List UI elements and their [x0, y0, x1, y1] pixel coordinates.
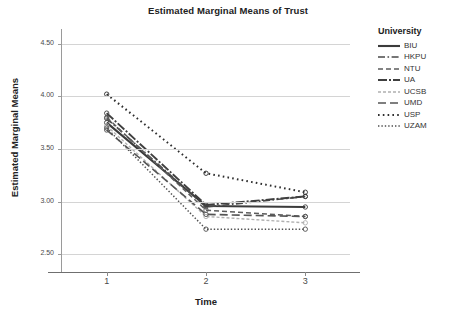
series-uzam [104, 126, 307, 232]
legend-item-label: HKPU [404, 52, 426, 62]
legend-swatch-icon [378, 75, 400, 85]
series-ua [104, 111, 307, 207]
series-line [107, 113, 306, 205]
x-tick-label: 2 [186, 276, 226, 286]
legend-item-label: UMD [404, 98, 422, 108]
legend-item-usp[interactable]: USP [378, 109, 456, 120]
legend-item-label: NTU [404, 64, 420, 74]
legend-item-ua[interactable]: UA [378, 75, 456, 86]
x-tick-mark [305, 272, 306, 276]
y-tick-label: 2.50 [14, 249, 54, 256]
legend-swatch-icon [378, 121, 400, 131]
legend-items: BIUHKPUNTUUAUCSBUMDUSPUZAM [378, 40, 456, 132]
legend-item-umd[interactable]: UMD [378, 98, 456, 109]
legend-swatch-icon [378, 41, 400, 51]
legend-item-ntu[interactable]: NTU [378, 63, 456, 74]
legend-item-ucsb[interactable]: UCSB [378, 86, 456, 97]
legend-title: University [378, 26, 456, 36]
legend-swatch-icon [378, 64, 400, 74]
legend-item-uzam[interactable]: UZAM [378, 121, 456, 132]
legend-item-label: BIU [404, 41, 417, 51]
chart-container: Estimated Marginal Means of Trust Estima… [0, 0, 456, 321]
x-axis-title: Time [62, 296, 350, 307]
x-tick-label: 1 [87, 276, 127, 286]
legend-item-biu[interactable]: BIU [378, 40, 456, 51]
x-tick-mark [107, 272, 108, 276]
y-tick-label: 3.00 [14, 197, 54, 204]
legend-swatch-icon [378, 98, 400, 108]
legend-swatch-icon [378, 110, 400, 120]
legend-item-label: USP [404, 110, 420, 120]
gridline [62, 254, 350, 255]
legend: University BIUHKPUNTUUAUCSBUMDUSPUZAM [378, 26, 456, 132]
y-tick-label: 3.50 [14, 144, 54, 151]
series-hkpu [104, 116, 307, 209]
legend-item-label: UZAM [404, 121, 427, 131]
y-tick-label: 4.50 [14, 39, 54, 46]
legend-swatch-icon [378, 52, 400, 62]
legend-item-hkpu[interactable]: HKPU [378, 52, 456, 63]
series-biu [104, 120, 307, 209]
gridline [62, 149, 350, 150]
legend-swatch-icon [378, 87, 400, 97]
series-line [107, 94, 306, 192]
x-tick-mark [206, 272, 207, 276]
gridline [62, 44, 350, 45]
series-line [107, 123, 306, 207]
legend-item-label: UA [404, 75, 415, 85]
gridline [62, 202, 350, 203]
data-point [303, 227, 307, 231]
y-axis-title: Estimated Marginal Means [9, 38, 20, 238]
series-line [107, 118, 306, 207]
x-axis-line [48, 272, 360, 273]
x-tick-label: 3 [285, 276, 325, 286]
series-ntu [104, 115, 307, 219]
gridline [62, 96, 350, 97]
y-tick-label: 4.00 [14, 91, 54, 98]
legend-item-label: UCSB [404, 87, 426, 97]
chart-title: Estimated Marginal Means of Trust [0, 5, 456, 16]
plot-area [62, 33, 350, 265]
